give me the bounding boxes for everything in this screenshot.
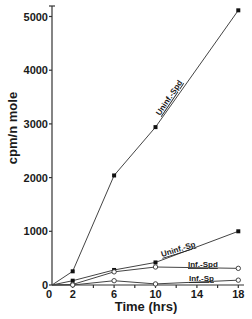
x-tick-label: 0 xyxy=(46,288,52,300)
data-point xyxy=(154,260,158,264)
data-point xyxy=(236,8,240,12)
x-tick-label: 2 xyxy=(70,288,76,300)
y-tick-label: 2000 xyxy=(24,172,48,184)
data-point xyxy=(112,279,116,283)
data-point xyxy=(236,266,240,270)
series-label-inf-spd: Inf.-Spd xyxy=(188,260,218,269)
y-axis-title: cpm/n mole xyxy=(5,92,20,164)
data-point xyxy=(112,173,116,177)
y-tick-label: 4000 xyxy=(24,64,48,76)
x-ticks: 026101418 xyxy=(46,285,244,300)
data-point xyxy=(112,270,116,274)
data-point xyxy=(153,282,157,286)
data-point xyxy=(236,229,240,233)
y-tick-label: 5000 xyxy=(24,11,48,23)
x-tick-label: 18 xyxy=(232,288,244,300)
series-line xyxy=(52,10,238,285)
series-uninf-spd xyxy=(52,8,240,285)
data-point xyxy=(71,269,75,273)
line-chart: 010002000300040005000 026101418 Time (hr… xyxy=(0,0,252,319)
y-tick-label: 1000 xyxy=(24,225,48,237)
axes xyxy=(49,6,244,285)
data-point xyxy=(236,278,240,282)
data-point xyxy=(71,283,75,287)
y-ticks: 010002000300040005000 xyxy=(24,11,52,292)
series-label-uninf-spd: Uninf.-Spd xyxy=(154,78,184,117)
series-label-inf-sp: Inf.-Sp xyxy=(189,274,214,283)
x-tick-label: 14 xyxy=(191,288,204,300)
data-point xyxy=(154,125,158,129)
y-tick-label: 3000 xyxy=(24,118,48,130)
series-group xyxy=(52,8,241,287)
data-point xyxy=(153,265,157,269)
x-axis-title: Time (hrs) xyxy=(115,299,178,314)
series-label-uninf-sp: Uninf.-Sp xyxy=(160,240,197,259)
